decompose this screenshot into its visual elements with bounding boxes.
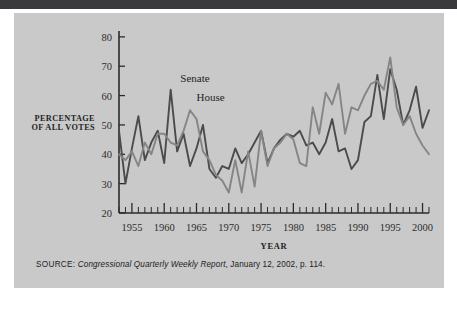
- y-tick-label: 30: [102, 179, 113, 190]
- y-tick-label: 60: [102, 91, 113, 102]
- figure-page: 2030405060708019551960196519701975198019…: [0, 0, 457, 310]
- y-tick-label: 80: [102, 32, 113, 43]
- source-rest: , January 12, 2002, p. 114.: [226, 260, 326, 269]
- x-tick-label: 1980: [283, 222, 304, 233]
- x-tick-label: 1955: [121, 222, 142, 233]
- x-tick-label: 2000: [412, 222, 433, 233]
- x-tick-label: 1960: [154, 222, 175, 233]
- x-tick-label: 1985: [315, 222, 336, 233]
- series-line-senate: [119, 69, 429, 183]
- x-axis-title: YEAR: [261, 241, 288, 251]
- y-axis-title-line1: PERCENTAGE: [34, 114, 95, 123]
- source-kicker: SOURCE:: [36, 260, 75, 269]
- x-tick-label: 1995: [380, 222, 401, 233]
- series-annotation-senate: Senate: [180, 72, 209, 84]
- x-tick-label: 1990: [347, 222, 368, 233]
- page-top-rule: [0, 0, 457, 9]
- line-chart: 2030405060708019551960196519701975198019…: [14, 13, 444, 253]
- series-annotation-house: House: [197, 91, 225, 103]
- series-line-house: [119, 57, 429, 192]
- y-axis-title-line2: OF ALL VOTES: [31, 123, 95, 132]
- y-tick-label: 50: [102, 120, 113, 131]
- chart-plot-area: 2030405060708019551960196519701975198019…: [14, 13, 444, 253]
- source-title: Congressional Quarterly Weekly Report: [78, 260, 226, 269]
- x-tick-label: 1975: [251, 222, 272, 233]
- y-tick-label: 20: [102, 208, 113, 219]
- x-tick-label: 1970: [218, 222, 239, 233]
- y-tick-label: 40: [102, 149, 113, 160]
- source-note: SOURCE: Congressional Quarterly Weekly R…: [36, 260, 436, 269]
- y-tick-label: 70: [102, 61, 113, 72]
- figure-panel: 2030405060708019551960196519701975198019…: [14, 13, 444, 288]
- x-tick-label: 1965: [186, 222, 207, 233]
